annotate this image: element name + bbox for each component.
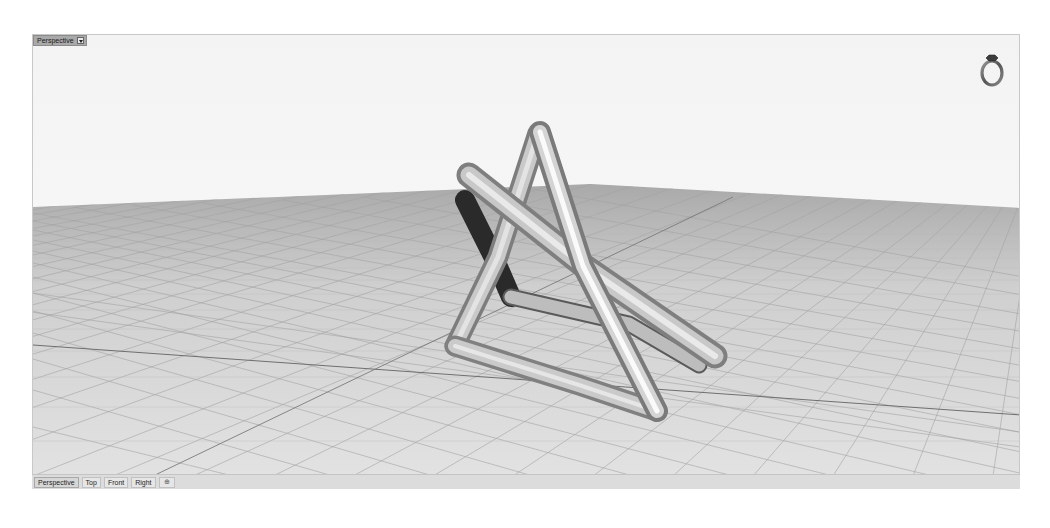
dropdown-arrow-icon[interactable] (77, 37, 84, 44)
viewport-title: Perspective (37, 37, 74, 44)
tab-perspective[interactable]: Perspective (34, 477, 79, 488)
ring-navigation-icon[interactable] (977, 49, 1007, 89)
add-viewport-icon[interactable]: ⊕ (159, 477, 175, 488)
3d-scene (33, 35, 1020, 475)
viewport-tab-bar: Perspective Top Front Right ⊕ (32, 474, 1020, 489)
viewport-title-menu[interactable]: Perspective (33, 35, 87, 46)
tab-right[interactable]: Right (131, 477, 155, 488)
perspective-viewport[interactable]: Perspective (32, 34, 1020, 475)
tab-front[interactable]: Front (104, 477, 128, 488)
tab-top[interactable]: Top (82, 477, 101, 488)
